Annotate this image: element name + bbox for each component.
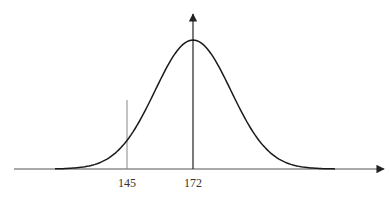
tick-label-172: 172 bbox=[184, 176, 202, 190]
bell-curve bbox=[55, 40, 335, 169]
tick-label-145: 145 bbox=[118, 176, 136, 190]
normal-distribution-chart: 145 172 bbox=[0, 0, 390, 197]
